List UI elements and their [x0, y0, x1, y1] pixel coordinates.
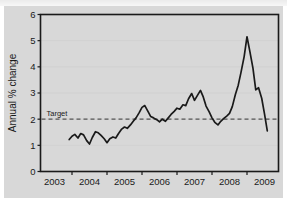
svg-text:2007: 2007: [184, 176, 205, 187]
svg-text:4: 4: [30, 61, 35, 72]
svg-text:2009: 2009: [254, 176, 275, 187]
gridlines: [41, 41, 279, 146]
svg-text:2003: 2003: [44, 176, 65, 187]
x-axis-tick-labels: 2003200420052006200720082009: [44, 176, 275, 187]
axis-tick-marks: [38, 15, 248, 176]
line-chart: 0123456 2003200420052006200720082009 Tar…: [0, 0, 287, 201]
svg-text:3: 3: [30, 87, 35, 98]
svg-text:2004: 2004: [79, 176, 100, 187]
svg-text:2006: 2006: [149, 176, 170, 187]
y-axis-tick-labels: 0123456: [30, 9, 35, 177]
svg-text:0: 0: [30, 166, 35, 177]
svg-text:2005: 2005: [114, 176, 135, 187]
svg-text:2: 2: [30, 114, 35, 125]
svg-text:6: 6: [30, 9, 35, 20]
data-series-line: [69, 37, 267, 144]
y-axis-label: Annual % change: [7, 53, 18, 132]
svg-text:1: 1: [30, 140, 35, 151]
svg-text:2008: 2008: [219, 176, 240, 187]
svg-text:5: 5: [30, 35, 35, 46]
chart-figure: 0123456 2003200420052006200720082009 Tar…: [0, 0, 287, 201]
target-annotation-label: Target: [47, 109, 69, 118]
